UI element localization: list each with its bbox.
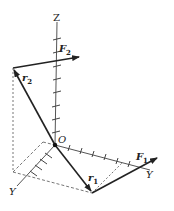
f2-vector <box>13 57 79 68</box>
f1-label: F1 <box>135 151 148 165</box>
y-axis-label-right: Y <box>146 169 154 180</box>
origin-label: O <box>58 134 66 145</box>
construction-lines <box>13 68 122 193</box>
z-axis <box>52 22 61 145</box>
vector-diagram: Z Y Y r2 F2 r1 <box>0 0 174 211</box>
z-axis-label: Z <box>53 12 60 23</box>
f2-label: F2 <box>58 43 71 57</box>
r2-label: r2 <box>22 72 32 86</box>
r1-label: r1 <box>88 172 98 186</box>
x-axis <box>17 145 55 186</box>
r2-vector <box>14 70 55 145</box>
origin-point <box>53 143 57 147</box>
r1-vector <box>55 145 91 191</box>
x-axis-label: Y <box>9 186 17 197</box>
